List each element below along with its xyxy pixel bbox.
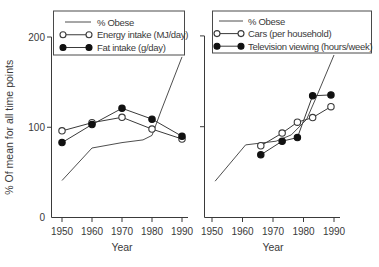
figure-canvas: 010020019501960197019801990Year% Of mean… xyxy=(0,0,379,267)
legend-label-cars-per-household: Cars (per household) xyxy=(248,28,331,39)
legend-label-fat-intake-g-day: Fat intake (g/day) xyxy=(97,42,166,53)
legend: % ObeseCars (per household)Television vi… xyxy=(213,11,373,53)
legend-symbol-marker xyxy=(214,31,220,37)
legend-label-obese: % Obese xyxy=(97,17,134,28)
series-marker-fat-intake-g-day xyxy=(89,121,95,127)
legend: % ObeseEnergy intake (MJ/day)Fat intake … xyxy=(54,11,189,55)
legend-symbol-marker xyxy=(60,45,66,51)
legend-symbol-marker xyxy=(214,43,220,49)
series-marker-television-viewing-hours-week xyxy=(279,138,285,144)
legend-label-energy-intake-mj-day: Energy intake (MJ/day) xyxy=(97,29,188,40)
legend-label-obese: % Obese xyxy=(248,16,285,27)
legend-symbol-marker xyxy=(86,32,92,38)
y-tick-label: 100 xyxy=(28,122,45,133)
y-tick-label: 200 xyxy=(28,32,45,43)
x-tick-label: 1970 xyxy=(262,226,285,237)
series-marker-energy-intake-mj-day xyxy=(59,128,65,134)
x-tick-label: 1980 xyxy=(292,226,315,237)
series-marker-fat-intake-g-day xyxy=(149,116,155,122)
x-tick-label: 1950 xyxy=(201,226,224,237)
series-marker-energy-intake-mj-day xyxy=(119,114,125,120)
series-marker-fat-intake-g-day xyxy=(119,105,125,111)
legend-symbol-marker xyxy=(238,31,244,37)
series-marker-cars-per-household xyxy=(279,130,285,136)
right-panel: 19501960197019801990Year% ObeseCars (per… xyxy=(200,11,372,253)
x-axis-title: Year xyxy=(262,241,284,253)
series-marker-fat-intake-g-day xyxy=(59,139,65,145)
x-tick-label: 1960 xyxy=(231,226,254,237)
x-tick-label: 1960 xyxy=(81,226,104,237)
legend-symbol-marker xyxy=(60,32,66,38)
series-marker-fat-intake-g-day xyxy=(179,133,185,139)
series-marker-energy-intake-mj-day xyxy=(149,126,155,132)
series-line-fat-intake-g-day xyxy=(62,108,182,142)
x-tick-label: 1990 xyxy=(171,226,194,237)
series-marker-television-viewing-hours-week xyxy=(294,134,300,140)
axes xyxy=(52,37,189,218)
y-axis-title: % Of mean for all time points xyxy=(3,60,15,195)
series-marker-television-viewing-hours-week xyxy=(258,152,264,158)
legend-symbol-marker xyxy=(238,43,244,49)
obesity-trends-dual-line-chart: 010020019501960197019801990Year% Of mean… xyxy=(0,0,379,267)
series-marker-cars-per-household xyxy=(294,119,300,125)
series-marker-television-viewing-hours-week xyxy=(328,92,334,98)
legend-label-television-viewing-hours-week: Television viewing (hours/week) xyxy=(248,41,372,52)
y-tick-label: 0 xyxy=(39,212,45,223)
left-panel: 010020019501960197019801990Year% Of mean… xyxy=(3,11,194,253)
series-marker-cars-per-household xyxy=(309,114,315,120)
x-axis-title: Year xyxy=(111,241,133,253)
x-tick-label: 1950 xyxy=(51,226,74,237)
x-tick-label: 1970 xyxy=(111,226,134,237)
series-marker-television-viewing-hours-week xyxy=(309,93,315,99)
x-tick-label: 1990 xyxy=(323,226,346,237)
x-tick-label: 1980 xyxy=(141,226,164,237)
series-marker-cars-per-household xyxy=(328,104,334,110)
series-marker-cars-per-household xyxy=(258,143,264,149)
axes xyxy=(205,36,341,218)
legend-symbol-marker xyxy=(86,45,92,51)
